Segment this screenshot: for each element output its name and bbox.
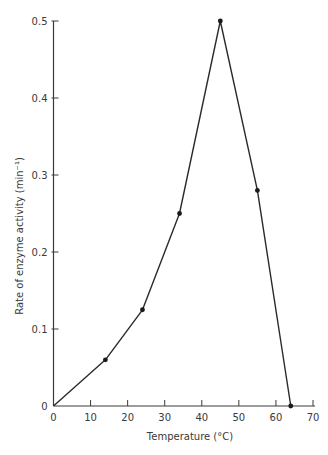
data-point bbox=[140, 307, 145, 312]
y-tick-label: 0.5 bbox=[32, 16, 48, 27]
x-axis-ticks: 010203040506070 bbox=[50, 400, 319, 423]
x-tick-label: 60 bbox=[270, 412, 283, 423]
y-axis-ticks: 00.10.20.30.40.5 bbox=[32, 16, 59, 412]
data-series bbox=[54, 19, 294, 409]
x-tick-label: 30 bbox=[158, 412, 171, 423]
data-point bbox=[218, 19, 223, 24]
x-tick-label: 70 bbox=[307, 412, 320, 423]
axes bbox=[54, 21, 316, 406]
x-tick-label: 50 bbox=[232, 412, 245, 423]
data-point bbox=[288, 404, 293, 409]
x-tick-label: 20 bbox=[121, 412, 134, 423]
data-point bbox=[255, 188, 260, 193]
y-axis-label: Rate of enzyme activity (min⁻¹) bbox=[14, 157, 25, 315]
y-tick-label: 0 bbox=[41, 401, 47, 412]
series-line bbox=[54, 21, 291, 406]
y-tick-label: 0.3 bbox=[32, 170, 48, 181]
x-tick-label: 10 bbox=[84, 412, 97, 423]
enzyme-activity-chart: 010203040506070 00.10.20.30.40.5 Tempera… bbox=[0, 0, 328, 455]
y-tick-label: 0.4 bbox=[32, 93, 48, 104]
y-tick-label: 0.2 bbox=[32, 247, 48, 258]
data-point bbox=[103, 357, 108, 362]
x-tick-label: 0 bbox=[50, 412, 56, 423]
y-tick-label: 0.1 bbox=[32, 324, 48, 335]
data-point bbox=[177, 211, 182, 216]
x-tick-label: 40 bbox=[195, 412, 208, 423]
x-axis-label: Temperature (°C) bbox=[146, 431, 233, 442]
